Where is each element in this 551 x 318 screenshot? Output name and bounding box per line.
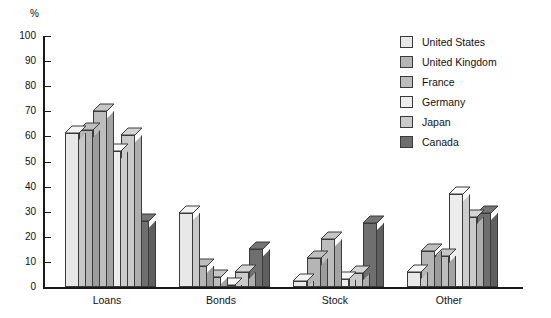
x-axis-label: Loans — [55, 294, 159, 306]
legend-item[interactable]: United Kingdom — [400, 52, 497, 72]
bar-top-face — [307, 251, 328, 258]
bar-side-face — [463, 194, 470, 287]
bar-side-face — [477, 217, 484, 287]
bar-side-face — [491, 213, 498, 287]
bar — [65, 133, 79, 287]
legend-item[interactable]: Canada — [400, 132, 497, 152]
bar-top-face — [121, 128, 142, 135]
bar-group — [65, 36, 165, 287]
y-axis-tick — [45, 287, 51, 288]
bar-top-face — [421, 244, 442, 251]
bar-side-face — [207, 266, 214, 287]
bar-side-face — [79, 133, 86, 287]
bar-side-face — [193, 213, 200, 287]
bar-side-face — [93, 130, 100, 287]
bar-side-face — [121, 151, 128, 287]
bar-top-face — [293, 274, 314, 281]
legend-label: Germany — [422, 96, 465, 108]
y-axis-tick-label: 70 — [10, 106, 36, 116]
bar-top-face — [65, 126, 86, 133]
y-axis-tick-label: 0 — [10, 282, 36, 292]
bar-front-face — [293, 281, 307, 287]
y-axis-tick-label: 40 — [10, 182, 36, 192]
bar-front-face — [307, 258, 321, 287]
bar-side-face — [135, 135, 142, 287]
legend-swatch — [400, 36, 413, 48]
legend-swatch — [400, 96, 413, 108]
bar-group — [179, 36, 279, 287]
bar — [307, 258, 321, 287]
x-axis-line — [43, 287, 523, 289]
bar-top-face — [449, 187, 470, 194]
legend-swatch — [400, 76, 413, 88]
bar-top-face — [93, 104, 114, 111]
bar-front-face — [65, 133, 79, 287]
bar — [293, 281, 307, 287]
bar-front-face — [363, 223, 377, 287]
bar-top-face — [249, 242, 270, 249]
x-axis-label: Other — [397, 294, 501, 306]
bar — [407, 272, 421, 287]
legend-label: Japan — [422, 116, 451, 128]
y-axis-tick-label: 90 — [10, 56, 36, 66]
y-axis-tick-label: 60 — [10, 131, 36, 141]
chart-legend: United StatesUnited KingdomFranceGermany… — [400, 32, 497, 152]
bar-side-face — [335, 239, 342, 287]
y-axis-unit-label: % — [30, 8, 39, 19]
bar-top-face — [235, 265, 256, 272]
bar-side-face — [377, 223, 384, 287]
bar-top-face — [321, 232, 342, 239]
x-axis-label: Bonds — [169, 294, 273, 306]
legend-label: United Kingdom — [422, 56, 497, 68]
y-axis-tick-label: 20 — [10, 232, 36, 242]
legend-item[interactable]: United States — [400, 32, 497, 52]
legend-item[interactable]: Germany — [400, 92, 497, 112]
bar — [179, 213, 193, 287]
bar-front-face — [179, 213, 193, 287]
legend-swatch — [400, 116, 413, 128]
y-axis-tick-label: 100 — [10, 31, 36, 41]
bar-side-face — [149, 221, 156, 288]
bar-top-face — [179, 206, 200, 213]
legend-swatch — [400, 136, 413, 148]
y-axis-tick-label: 80 — [10, 81, 36, 91]
legend-label: France — [422, 76, 455, 88]
bar-top-face — [407, 265, 428, 272]
legend-label: Canada — [422, 136, 459, 148]
bar-group — [293, 36, 393, 287]
bar-side-face — [263, 249, 270, 287]
bar — [363, 223, 377, 287]
x-axis-label: Stock — [283, 294, 387, 306]
y-axis-tick-label: 30 — [10, 207, 36, 217]
legend-item[interactable]: Japan — [400, 112, 497, 132]
legend-item[interactable]: France — [400, 72, 497, 92]
bar-chart: % 1009080706050403020100 LoansBondsStock… — [0, 0, 551, 318]
bar-side-face — [107, 111, 114, 287]
legend-swatch — [400, 56, 413, 68]
bar-front-face — [407, 272, 421, 287]
y-axis-tick-label: 10 — [10, 257, 36, 267]
legend-label: United States — [422, 36, 485, 48]
y-axis-tick-label: 50 — [10, 157, 36, 167]
bar-top-face — [363, 216, 384, 223]
